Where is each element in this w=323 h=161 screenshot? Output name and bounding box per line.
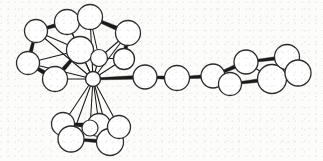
atom-sphere-upper-cage bbox=[25, 20, 48, 43]
atom-sphere-lower-cage bbox=[58, 126, 84, 152]
atom-sphere-aryl-ring bbox=[234, 50, 258, 74]
atom-sphere-upper-cage bbox=[17, 52, 40, 75]
atom-sphere-upper-cage bbox=[55, 10, 80, 35]
atom-sphere-aryl-ring bbox=[219, 73, 242, 96]
atom-sphere-upper-cage bbox=[116, 21, 141, 46]
atom-sphere-metal-center bbox=[86, 72, 101, 87]
atom-sphere-upper-cage bbox=[91, 50, 108, 67]
atom-sphere-upper-cage bbox=[67, 37, 94, 64]
atom-sphere-aryl-ring bbox=[285, 60, 311, 86]
molecule-canvas bbox=[0, 0, 323, 161]
atom-sphere-upper-cage bbox=[78, 5, 103, 30]
atom-sphere-chain bbox=[133, 65, 157, 89]
molecular-structure-figure bbox=[0, 0, 323, 161]
atom-sphere-upper-cage bbox=[43, 67, 68, 92]
atom-sphere-upper-cage bbox=[114, 49, 135, 70]
atom-sphere-lower-cage bbox=[108, 116, 131, 139]
atom-sphere-chain bbox=[165, 66, 190, 91]
atom-sphere-lower-cage bbox=[82, 120, 98, 136]
